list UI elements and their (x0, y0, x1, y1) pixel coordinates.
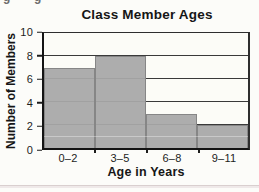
worksheet-page: gg Class Member Ages Number of Members 0… (0, 0, 259, 192)
bar-9–11 (197, 125, 248, 148)
page-bottom-rule (0, 185, 259, 188)
bar-6–8 (146, 114, 197, 149)
y-tick-label-2: 2 (27, 121, 33, 132)
cropped-text-fragment: g (34, 0, 41, 4)
bar-3–5 (95, 56, 146, 148)
y-tick-labels: 0246810 (0, 32, 35, 150)
y-tick-label-8: 8 (27, 50, 33, 61)
x-axis-title: Age in Years (42, 165, 250, 179)
cropped-text-fragments: gg (0, 0, 70, 4)
gridline-8 (44, 55, 248, 56)
y-tick-label-0: 0 (27, 145, 33, 156)
x-category-label-3–5: 3–5 (94, 152, 146, 164)
cropped-text-fragment: g (3, 0, 10, 4)
y-tick-label-6: 6 (27, 74, 33, 85)
x-category-label-0–2: 0–2 (42, 152, 94, 164)
x-category-labels: 0–23–56–89–11 (42, 152, 250, 164)
plot-area (42, 32, 250, 150)
chart-title: Class Member Ages (42, 7, 252, 22)
y-tick-label-4: 4 (27, 97, 33, 108)
x-category-label-6–8: 6–8 (146, 152, 198, 164)
faint-artifact-line (44, 136, 248, 137)
x-category-label-9–11: 9–11 (198, 152, 250, 164)
y-tick-label-10: 10 (20, 27, 33, 38)
